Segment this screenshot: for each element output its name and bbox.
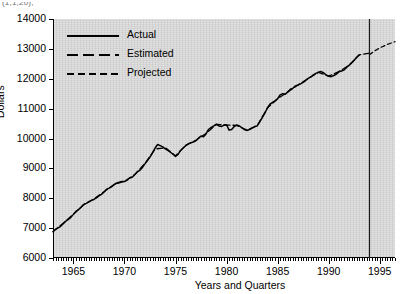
- x-tick: [359, 258, 360, 261]
- x-tick: [150, 258, 151, 261]
- x-tick-label-1990: 1990: [309, 265, 349, 277]
- x-tick: [354, 258, 355, 261]
- x-tick: [109, 258, 110, 261]
- x-tick: [81, 258, 82, 261]
- x-tick: [288, 258, 289, 261]
- x-tick-major-1995: [380, 258, 381, 264]
- x-tick: [344, 258, 345, 261]
- x-tick: [313, 258, 314, 261]
- x-tick: [155, 258, 156, 261]
- y-tick-13000: [49, 49, 54, 50]
- x-tick: [244, 258, 245, 261]
- x-tick-major-1975: [176, 258, 177, 264]
- x-tick-label-1970: 1970: [104, 265, 144, 277]
- x-tick: [364, 258, 365, 261]
- x-tick: [142, 258, 143, 261]
- legend-item-estimated: Estimated: [67, 46, 217, 65]
- x-tick: [347, 258, 348, 261]
- x-tick: [204, 258, 205, 261]
- x-tick: [239, 258, 240, 261]
- x-tick: [308, 258, 309, 261]
- x-tick: [178, 258, 179, 261]
- x-tick: [306, 258, 307, 261]
- x-tick: [285, 258, 286, 261]
- x-tick: [160, 258, 161, 261]
- x-tick: [352, 258, 353, 261]
- x-tick: [163, 258, 164, 261]
- x-tick: [260, 258, 261, 261]
- x-axis-title: Years and Quarters: [0, 279, 400, 291]
- x-tick: [188, 258, 189, 261]
- x-tick: [114, 258, 115, 261]
- x-tick: [198, 258, 199, 261]
- x-tick: [362, 258, 363, 261]
- y-axis-labels: 6000700080009000100001100012000130001400…: [0, 19, 49, 258]
- x-tick: [122, 258, 123, 261]
- x-tick: [71, 258, 72, 261]
- x-tick: [232, 258, 233, 261]
- x-tick: [209, 258, 210, 261]
- x-tick: [382, 258, 383, 261]
- y-tick-11000: [49, 109, 54, 110]
- x-tick: [295, 258, 296, 261]
- x-tick: [321, 258, 322, 261]
- x-tick: [158, 258, 159, 261]
- legend: Actual Estimated Projected: [67, 27, 217, 84]
- x-tick: [293, 258, 294, 261]
- x-tick: [130, 258, 131, 261]
- x-tick: [61, 258, 62, 261]
- x-tick-label-1965: 1965: [53, 265, 93, 277]
- x-tick: [377, 258, 378, 261]
- x-tick: [96, 258, 97, 261]
- x-tick: [56, 258, 57, 261]
- x-tick: [94, 258, 95, 261]
- x-tick: [298, 258, 299, 261]
- x-tick: [214, 258, 215, 261]
- x-tick: [280, 258, 281, 261]
- x-tick: [257, 258, 258, 261]
- x-tick: [66, 258, 67, 261]
- x-tick: [326, 258, 327, 261]
- x-tick: [242, 258, 243, 261]
- y-tick-label-10000: 10000: [0, 132, 46, 144]
- legend-item-actual: Actual: [67, 27, 217, 46]
- x-tick: [191, 258, 192, 261]
- legend-swatch-long-dash-line-icon: [67, 54, 119, 56]
- x-tick: [367, 258, 368, 261]
- x-tick: [369, 258, 370, 261]
- x-tick: [336, 258, 337, 261]
- x-tick-major-1990: [329, 258, 330, 264]
- legend-label-estimated: Estimated: [127, 47, 174, 59]
- x-tick: [117, 258, 118, 261]
- x-tick: [84, 258, 85, 261]
- x-tick-label-1980: 1980: [207, 265, 247, 277]
- y-tick-7000: [49, 228, 54, 229]
- y-tick-label-11000: 11000: [0, 102, 46, 114]
- x-tick-major-1985: [278, 258, 279, 264]
- x-tick: [237, 258, 238, 261]
- y-tick-label-12000: 12000: [0, 72, 46, 84]
- y-tick-14000: [49, 19, 54, 20]
- x-tick: [168, 258, 169, 261]
- x-tick: [339, 258, 340, 261]
- x-tick: [58, 258, 59, 261]
- x-tick: [224, 258, 225, 261]
- x-tick: [181, 258, 182, 261]
- x-tick: [387, 258, 388, 261]
- x-tick: [196, 258, 197, 261]
- legend-item-projected: Projected: [67, 65, 217, 84]
- legend-label-projected: Projected: [127, 66, 171, 78]
- y-tick-label-9000: 9000: [0, 161, 46, 173]
- y-tick-10000: [49, 139, 54, 140]
- x-tick: [183, 258, 184, 261]
- x-tick: [390, 258, 391, 261]
- x-tick: [219, 258, 220, 261]
- x-tick: [375, 258, 376, 261]
- x-tick: [91, 258, 92, 261]
- x-tick: [324, 258, 325, 261]
- x-tick-label-1985: 1985: [258, 265, 298, 277]
- x-tick: [247, 258, 248, 261]
- x-tick: [99, 258, 100, 261]
- x-tick: [275, 258, 276, 261]
- x-tick: [101, 258, 102, 261]
